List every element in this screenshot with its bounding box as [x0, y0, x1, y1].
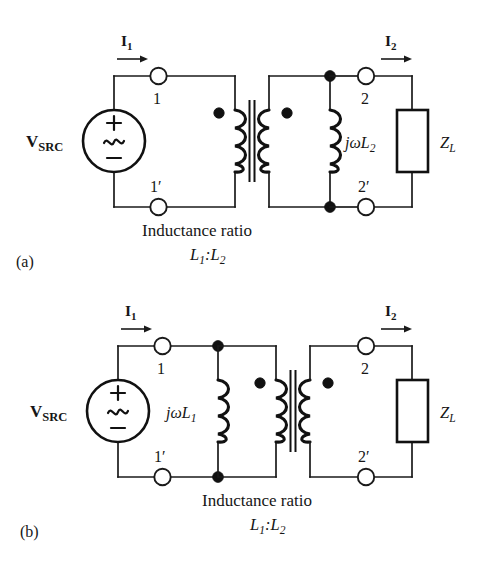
current-arrow-i1-a: [117, 56, 148, 63]
polarity-dot-secondary-b: [323, 378, 333, 388]
terminal-2-b[interactable]: [358, 338, 374, 354]
polarity-dot-primary-b: [255, 378, 265, 388]
inductance-ratio-value-b: L1:L2: [249, 515, 286, 536]
terminal-2prime-b[interactable]: [358, 469, 374, 485]
shunt-inductor-label-b: jωL1: [164, 404, 196, 424]
terminal-2prime-label-b: 2′: [358, 448, 370, 465]
shunt-inductor-b: [218, 346, 229, 477]
panel-caption-a: (a): [16, 253, 34, 271]
secondary-coil-b: [300, 380, 311, 442]
terminal-1-b[interactable]: [154, 338, 170, 354]
source-label-b: VSRC: [30, 402, 67, 424]
load-impedance-box-a: [397, 110, 428, 172]
terminal-2prime-a[interactable]: [358, 199, 374, 215]
primary-coil-a: [235, 110, 246, 172]
polarity-dot-primary-a: [214, 108, 224, 118]
current-label-i1-b: I1: [125, 302, 137, 322]
transformer-b: [255, 370, 333, 452]
figure-container: VSRC 1 1′: [0, 0, 484, 567]
source-label-a: VSRC: [26, 132, 63, 154]
terminal-1-label-b: 1: [157, 360, 165, 377]
current-label-i1-a: I1: [121, 32, 133, 52]
shunt-coil-a: [330, 110, 341, 172]
load-label-a: ZL: [440, 133, 456, 154]
panel-b: VSRC 1 1′ jωL1: [20, 302, 456, 541]
transformer-a: [214, 100, 292, 182]
inductance-ratio-text-a: Inductance ratio: [142, 221, 252, 240]
current-label-i2-b: I2: [385, 302, 397, 322]
panel-caption-b: (b): [20, 523, 39, 541]
primary-coil-b: [276, 380, 287, 442]
terminal-1prime-a[interactable]: [150, 199, 166, 215]
terminal-2prime-label-a: 2′: [358, 178, 370, 195]
load-label-b: ZL: [440, 403, 456, 424]
terminal-2-label-b: 2: [361, 360, 369, 377]
panel-a: VSRC 1 1′: [16, 32, 456, 271]
current-arrow-i2-b: [381, 326, 412, 333]
circuit-figure-svg: VSRC 1 1′: [0, 0, 484, 567]
inductance-ratio-value-a: L1:L2: [189, 245, 226, 266]
shunt-inductor-label-a: jωL2: [343, 134, 376, 154]
terminal-1prime-label-a: 1′: [150, 178, 162, 195]
voltage-source-b: [87, 346, 149, 477]
shunt-inductor-a: [330, 76, 341, 207]
secondary-coil-a: [259, 110, 270, 172]
voltage-source-a: [83, 76, 145, 207]
terminal-1-a[interactable]: [150, 68, 166, 84]
load-impedance-box-b: [397, 380, 428, 442]
polarity-dot-secondary-a: [282, 108, 292, 118]
terminal-1prime-b[interactable]: [154, 469, 170, 485]
terminal-1prime-label-b: 1′: [154, 448, 166, 465]
current-label-i2-a: I2: [385, 32, 397, 52]
current-arrow-i2-a: [381, 56, 412, 63]
shunt-coil-b: [218, 380, 229, 442]
terminal-2-a[interactable]: [358, 68, 374, 84]
inductance-ratio-text-b: Inductance ratio: [202, 491, 312, 510]
terminal-1-label-a: 1: [153, 90, 161, 107]
current-arrow-i1-b: [121, 326, 152, 333]
terminal-2-label-a: 2: [361, 90, 369, 107]
